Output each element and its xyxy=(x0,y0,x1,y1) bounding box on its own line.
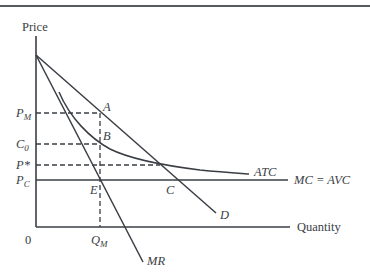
marginal-revenue-curve xyxy=(36,55,143,262)
monopoly-diagram: Price Quantity 0 PM C0 P* PC QM A B C E … xyxy=(0,0,370,280)
y-axis-label: Price xyxy=(22,20,48,34)
point-a-label: A xyxy=(102,100,111,114)
demand-curve xyxy=(36,55,216,213)
mr-label: MR xyxy=(146,254,165,268)
atc-label: ATC xyxy=(253,165,277,179)
atc-curve xyxy=(59,92,249,174)
pstar-label: P* xyxy=(15,158,31,172)
mc-avc-label: MC = AVC xyxy=(293,173,351,187)
c0-label: C0 xyxy=(16,137,29,153)
point-b-label: B xyxy=(103,129,111,143)
point-e-label: E xyxy=(89,183,98,197)
pc-label: PC xyxy=(15,173,31,189)
pm-label: PM xyxy=(15,106,32,122)
x-axis-label: Quantity xyxy=(297,220,341,234)
origin-label: 0 xyxy=(25,233,31,247)
point-c-label: C xyxy=(166,183,175,197)
demand-label: D xyxy=(219,208,229,222)
qm-label: QM xyxy=(91,233,108,249)
